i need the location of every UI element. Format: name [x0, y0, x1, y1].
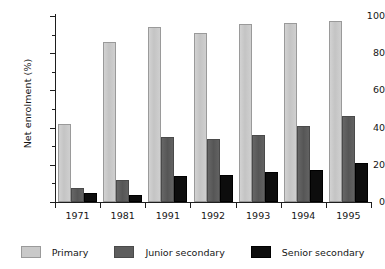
bar-1981-senior — [129, 195, 142, 202]
legend-item-junior: Junior secondary — [114, 246, 224, 258]
bar-1995-senior — [355, 163, 368, 202]
bar-1992-primary — [194, 33, 207, 202]
bar-1981-primary — [103, 42, 116, 202]
bar-1994-senior — [310, 170, 323, 202]
plot-area — [55, 16, 371, 202]
bar-1993-senior — [265, 172, 278, 202]
x-tick-mark — [100, 203, 101, 208]
bar-1993-primary — [239, 24, 252, 202]
chart-legend: PrimaryJunior secondarySenior secondary — [0, 240, 385, 264]
bar-chart: Net enrolment (%) 020406080100 197119811… — [0, 0, 385, 269]
bar-1991-senior — [174, 176, 187, 202]
x-tick-mark — [371, 203, 372, 208]
bar-1994-junior — [297, 126, 310, 202]
bar-1971-senior — [84, 193, 97, 202]
x-tick-label-1995: 1995 — [318, 210, 378, 221]
bar-1991-junior — [161, 137, 174, 202]
legend-item-primary: Primary — [21, 246, 89, 258]
bar-1971-primary — [58, 124, 71, 202]
bar-1995-primary — [329, 21, 342, 202]
x-axis-line — [55, 202, 372, 203]
x-tick-mark — [55, 203, 56, 208]
x-tick-mark — [145, 203, 146, 208]
x-tick-mark — [281, 203, 282, 208]
legend-item-senior: Senior secondary — [251, 246, 365, 258]
bar-1994-primary — [284, 23, 297, 202]
bar-1992-junior — [207, 139, 220, 202]
legend-swatch-junior-secondary — [114, 246, 134, 258]
x-tick-mark — [190, 203, 191, 208]
legend-label-senior: Senior secondary — [282, 247, 365, 258]
legend-swatch-senior-secondary — [251, 246, 271, 258]
legend-swatch-primary — [21, 246, 41, 258]
bar-1971-junior — [71, 188, 84, 202]
legend-label-primary: Primary — [52, 247, 89, 258]
bar-1992-senior — [220, 175, 233, 202]
x-tick-mark — [236, 203, 237, 208]
y-axis-title: Net enrolment (%) — [22, 24, 33, 184]
bar-1991-primary — [148, 27, 161, 202]
legend-label-junior: Junior secondary — [145, 247, 224, 258]
bar-1995-junior — [342, 116, 355, 202]
x-tick-mark — [326, 203, 327, 208]
bar-1981-junior — [116, 180, 129, 202]
bar-1993-junior — [252, 135, 265, 202]
